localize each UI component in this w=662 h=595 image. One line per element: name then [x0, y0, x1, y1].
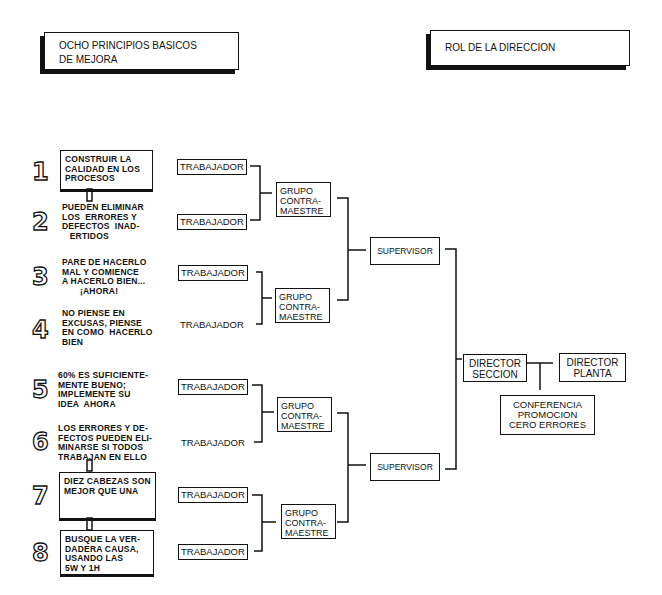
- worker-node-7: TRABAJADOR: [178, 487, 248, 503]
- zero-defects-conference-node: CONFERENCIA PROMOCION CERO ERRORES: [500, 395, 595, 435]
- principle-6-text: LOS ERRORES Y DE- FECTOS PUEDEN ELI- MIN…: [58, 424, 152, 462]
- worker-node-2: TRABAJADOR: [177, 214, 247, 230]
- worker-node-6: TRABAJADOR: [179, 436, 247, 450]
- principle-number-7: 7: [32, 484, 49, 508]
- principle-number-4: 4: [32, 318, 49, 342]
- worker-node-8: TRABAJADOR: [178, 544, 248, 560]
- director-section-node: DIRECTOR SECCION: [463, 354, 527, 382]
- worker-node-4: TRABAJADOR: [178, 318, 246, 332]
- principle-4-text: NO PIENSE EN EXCUSAS, PIENSE EN COMO HAC…: [62, 309, 153, 347]
- worker-node-3: TRABAJADOR: [178, 265, 248, 281]
- principle-number-8: 8: [32, 541, 49, 565]
- foreman-group-3: GRUPO CONTRA- MAESTRE: [277, 397, 332, 432]
- principle-number-6: 6: [32, 430, 49, 454]
- worker-node-1: TRABAJADOR: [177, 159, 247, 175]
- principle-number-5: 5: [32, 378, 49, 402]
- director-plant-node: DIRECTOR PLANTA: [559, 353, 626, 382]
- principle-number-3: 3: [32, 265, 49, 289]
- supervisor-node-1: SUPERVISOR: [370, 237, 440, 265]
- principle-2-text: PUEDEN ELIMINAR LOS ERRORES Y DEFECTOS I…: [62, 203, 144, 241]
- principle-8-box: BUSQUE LA VER- DADERA CAUSA, USANDO LAS …: [60, 530, 154, 575]
- principle-7-box: DIEZ CABEZAS SON MEJOR QUE UNA: [59, 472, 156, 519]
- principle-number-1: 1: [32, 160, 49, 184]
- foreman-group-2: GRUPO CONTRA- MAESTRE: [275, 288, 330, 323]
- principle-number-2: 2: [32, 210, 49, 234]
- worker-node-5: TRABAJADOR: [178, 379, 248, 395]
- foreman-group-4: GRUPO CONTRA- MAESTRE: [281, 504, 336, 539]
- principle-5-text: 60% ES SUFICIENTE- MENTE BUENO; IMPLEMEN…: [58, 371, 148, 409]
- foreman-group-1: GRUPO CONTRA- MAESTRE: [276, 182, 331, 217]
- principle-3-text: PARE DE HACERLO MAL Y COMIENCE A HACERLO…: [62, 258, 147, 296]
- supervisor-node-2: SUPERVISOR: [370, 453, 440, 481]
- principle-1-box: CONSTRUIR LA CALIDAD EN LOS PROCESOS: [60, 150, 153, 190]
